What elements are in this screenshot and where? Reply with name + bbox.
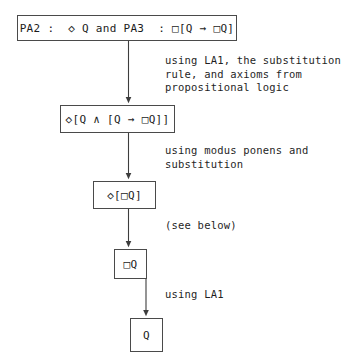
node-q: Q [130,318,163,352]
edge-annotation-4: using LA1 [165,288,224,302]
node-necessarily-q: □Q [114,249,147,279]
edge-annotation-1: using LA1, the substitution rule, and ax… [165,54,341,95]
edge-annotation-2: using modus ponens and substitution [165,144,308,171]
diagram-canvas: PA2 : ◇ Q and PA3 : □[Q → □Q] ◇[Q ∧ [Q →… [0,0,351,357]
node-premises: PA2 : ◇ Q and PA3 : □[Q → □Q] [17,15,237,41]
node-conjunction: ◇[Q ∧ [Q → □Q]] [60,105,175,133]
edge-annotation-3: (see below) [165,219,237,233]
node-possibly-necessarily-q: ◇[□Q] [93,181,156,209]
